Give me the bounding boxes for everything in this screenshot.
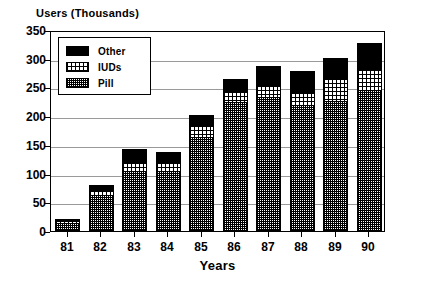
bar-segment-other (122, 149, 147, 163)
bar-segment-pill (89, 195, 114, 231)
x-axis-tick-mark (335, 232, 336, 237)
crosshatch-swatch-icon (66, 78, 89, 88)
figure-caption (34, 272, 414, 281)
x-axis-tick-mark (201, 232, 202, 237)
x-axis-tick-mark (100, 232, 101, 237)
bar-segment-pill (55, 223, 80, 231)
bar-90 (357, 43, 382, 231)
y-axis-tick-label: 300 (6, 53, 46, 67)
x-axis-tick-mark (234, 232, 235, 237)
bar-84 (156, 152, 181, 231)
stacked-bar-chart-figure: Users (Thousands) 050100150200250300350 … (0, 0, 426, 282)
bar-segment-other (290, 71, 315, 93)
bar-segment-iuds (357, 70, 382, 90)
bar-86 (223, 79, 248, 231)
y-axis-tick-label: 0 (6, 225, 46, 239)
bar-segment-pill (223, 102, 248, 231)
bar-segment-pill (189, 137, 214, 231)
y-axis-tick-mark (44, 232, 50, 233)
y-axis-tick-label: 100 (6, 168, 46, 182)
legend-item-other: Other (66, 43, 150, 59)
y-axis-tick-label: 50 (6, 196, 46, 210)
y-axis-tick-label: 350 (6, 24, 46, 38)
bar-segment-iuds (256, 86, 281, 97)
bar-89 (323, 58, 348, 231)
bar-segment-other (156, 152, 181, 163)
x-axis-tick-mark (134, 232, 135, 237)
bar-88 (290, 71, 315, 231)
bar-segment-other (256, 66, 281, 86)
bar-segment-iuds (189, 126, 214, 137)
legend-label-iuds: IUDs (98, 62, 122, 73)
x-axis-tick-mark (167, 232, 168, 237)
bar-segment-pill (156, 171, 181, 231)
bar-segment-pill (323, 101, 348, 231)
legend: Other IUDs Pill (58, 37, 151, 95)
bar-segment-iuds (122, 163, 147, 170)
bar-segment-other (189, 115, 214, 126)
legend-label-other: Other (98, 46, 126, 57)
bar-82 (89, 185, 114, 231)
bar-segment-iuds (223, 92, 248, 102)
x-axis-tick-mark (67, 232, 68, 237)
legend-label-pill: Pill (98, 78, 114, 89)
bar-segment-pill (357, 90, 382, 231)
y-axis-tick-label: 200 (6, 110, 46, 124)
bar-segment-other (223, 79, 248, 92)
bar-segment-iuds (323, 79, 348, 100)
y-axis-tick-label: 250 (6, 81, 46, 95)
bar-segment-pill (122, 171, 147, 231)
bar-segment-other (357, 43, 382, 70)
x-axis-tick-label: 90 (348, 240, 388, 254)
bar-83 (122, 149, 147, 231)
bar-segment-other (323, 58, 348, 79)
bar-81 (55, 219, 80, 231)
light-dotted-swatch-icon (66, 62, 89, 72)
x-axis-title: Years (50, 258, 385, 273)
bar-segment-pill (256, 97, 281, 231)
bar-85 (189, 115, 214, 231)
x-axis-tick-mark (268, 232, 269, 237)
legend-item-iuds: IUDs (66, 59, 150, 75)
bar-segment-iuds (290, 93, 315, 105)
bar-segment-iuds (156, 163, 181, 172)
bar-87 (256, 66, 281, 231)
x-axis-tick-mark (368, 232, 369, 237)
x-axis-tick-mark (301, 232, 302, 237)
y-axis-title: Users (Thousands) (36, 7, 139, 19)
bar-segment-pill (290, 105, 315, 231)
y-axis-tick-label: 150 (6, 139, 46, 153)
solid-black-swatch-icon (66, 46, 89, 56)
legend-item-pill: Pill (66, 75, 150, 91)
